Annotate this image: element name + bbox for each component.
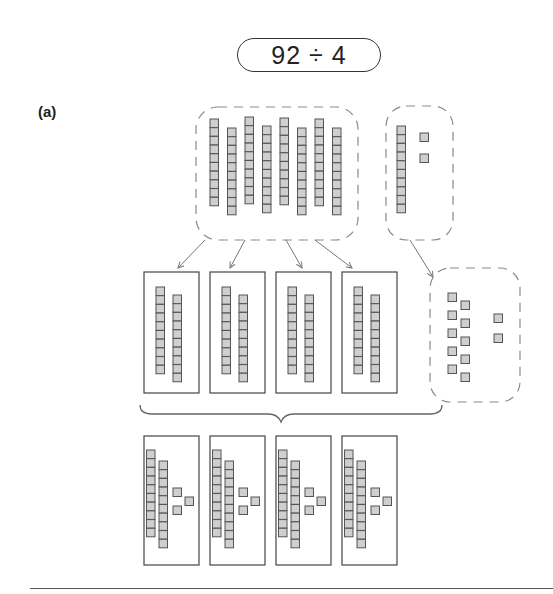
ten-rod	[397, 126, 406, 213]
ten-rod	[147, 450, 156, 537]
rod-cube	[228, 198, 237, 207]
arrow-to-share-1	[178, 240, 205, 268]
rod-cube	[173, 356, 182, 365]
rod-cube	[305, 295, 314, 304]
rod-cube	[225, 531, 234, 540]
rod-cube	[354, 322, 363, 331]
share-boxes	[144, 272, 397, 393]
share-box-2	[210, 272, 265, 393]
rod-cube	[371, 365, 380, 374]
rod-cube	[345, 476, 354, 485]
rod-cube	[305, 312, 314, 321]
rod-cube	[210, 180, 219, 189]
rod-cube	[213, 485, 222, 494]
rod-cube	[305, 321, 314, 330]
rod-cube	[263, 178, 272, 187]
rod-cube	[159, 487, 168, 496]
unit-cube	[448, 311, 457, 320]
rod-cube	[333, 206, 342, 215]
rod-cube	[288, 322, 297, 331]
arrow-to-share-2	[230, 240, 245, 268]
rod-cube	[315, 119, 324, 128]
rod-cube	[397, 196, 406, 205]
arrow-to-share-3	[286, 240, 302, 268]
rod-cube	[315, 180, 324, 189]
rod-cube	[354, 313, 363, 322]
rod-cube	[245, 126, 254, 135]
rod-cube	[291, 505, 300, 514]
ten-rod	[280, 118, 289, 205]
rod-cube	[298, 154, 307, 163]
rod-cube	[156, 287, 165, 296]
rod-cube	[397, 204, 406, 213]
rod-cube	[315, 154, 324, 163]
rod-cube	[371, 347, 380, 356]
rod-cube	[239, 365, 248, 374]
rod-cube	[222, 331, 231, 340]
rod-cube	[213, 511, 222, 520]
rod-cube	[333, 198, 342, 207]
rod-cube	[245, 169, 254, 178]
rod-cube	[354, 365, 363, 374]
unit-cube	[448, 293, 457, 302]
rod-cube	[222, 304, 231, 313]
rod-cube	[315, 189, 324, 198]
rod-cube	[291, 539, 300, 548]
rod-cube	[222, 357, 231, 366]
rod-cube	[298, 137, 307, 146]
ten-rod	[239, 295, 248, 382]
rod-cube	[279, 476, 288, 485]
rod-cube	[147, 476, 156, 485]
rod-cube	[291, 487, 300, 496]
rod-cube	[357, 522, 366, 531]
ten-rod	[156, 287, 165, 374]
rod-cube	[288, 348, 297, 357]
rod-cube	[397, 178, 406, 187]
rod-cube	[225, 470, 234, 479]
rod-cube	[210, 119, 219, 128]
ten-rod	[279, 450, 288, 537]
rod-cube	[156, 313, 165, 322]
rod-cube	[147, 502, 156, 511]
unit-cube	[173, 506, 182, 515]
rod-cube	[225, 496, 234, 505]
rod-cube	[291, 461, 300, 470]
rod-cube	[280, 127, 289, 136]
rod-cube	[245, 152, 254, 161]
rod-cube	[263, 135, 272, 144]
rod-cube	[222, 287, 231, 296]
rod-cube	[397, 170, 406, 179]
rod-cube	[213, 450, 222, 459]
rod-cube	[305, 330, 314, 339]
rod-cube	[228, 180, 237, 189]
rod-cube	[239, 373, 248, 382]
rod-cube	[213, 528, 222, 537]
rod-cube	[279, 502, 288, 511]
rod-cube	[345, 467, 354, 476]
rod-cube	[239, 304, 248, 313]
rod-cube	[288, 331, 297, 340]
rod-cube	[315, 145, 324, 154]
rod-cube	[333, 163, 342, 172]
unit-cube	[383, 497, 392, 506]
arrow-to-share-4	[315, 240, 352, 268]
rod-cube	[228, 128, 237, 137]
rod-cube	[333, 189, 342, 198]
arrow-to-regroup	[410, 240, 433, 277]
rod-cube	[298, 163, 307, 172]
rod-cube	[279, 459, 288, 468]
ten-rod	[345, 450, 354, 537]
rod-cube	[159, 539, 168, 548]
regrouped-units	[448, 293, 503, 382]
rod-cube	[298, 172, 307, 181]
rod-cube	[315, 171, 324, 180]
rod-cube	[225, 478, 234, 487]
share-box-4	[342, 272, 397, 393]
rod-cube	[288, 313, 297, 322]
rod-cube	[279, 494, 288, 503]
share-box-3	[276, 272, 331, 393]
rod-cube	[245, 161, 254, 170]
rod-cube	[298, 145, 307, 154]
rod-cube	[357, 513, 366, 522]
rod-cube	[397, 187, 406, 196]
